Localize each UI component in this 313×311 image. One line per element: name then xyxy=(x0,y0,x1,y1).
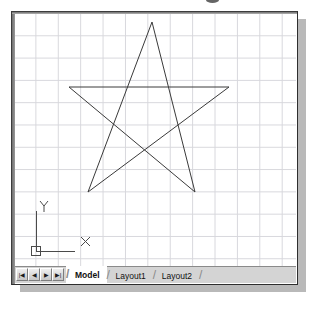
ucs-icon xyxy=(27,199,97,261)
ucs-x-label-glyph xyxy=(81,237,90,246)
tab-separator-icon: / xyxy=(66,268,73,282)
last-tab-button[interactable]: ▶| xyxy=(52,268,64,281)
last-tab-icon: ▶| xyxy=(55,272,62,278)
window-shadow-right xyxy=(298,19,306,292)
tab-separator-icon: / xyxy=(153,269,160,283)
tab-layout2-label: Layout2 xyxy=(162,271,192,281)
tab-strip: / Model / Layout1 / Layout2 / xyxy=(66,267,296,283)
tab-layout2[interactable]: / Layout2 xyxy=(153,268,199,283)
tab-layout1[interactable]: / Layout1 xyxy=(107,268,153,283)
tab-model-label: Model xyxy=(75,270,100,280)
screenshot-stage: |◀ ◀ ▶ ▶| / Model / Layou xyxy=(0,0,313,311)
window-shadow-bottom xyxy=(20,286,306,292)
next-tab-button[interactable]: ▶ xyxy=(40,268,52,281)
scan-artifact-smudge xyxy=(206,0,219,3)
tab-model[interactable]: / Model xyxy=(66,266,107,283)
tab-separator-icon: / xyxy=(107,269,114,283)
previous-tab-icon: ◀ xyxy=(32,272,37,278)
tab-nav-buttons: |◀ ◀ ▶ ▶| xyxy=(15,267,64,283)
first-tab-button[interactable]: |◀ xyxy=(16,268,28,281)
next-tab-icon: ▶ xyxy=(44,272,49,278)
ucs-y-label-glyph xyxy=(40,201,48,212)
previous-tab-button[interactable]: ◀ xyxy=(28,268,40,281)
tab-trailing-separator-icon: / xyxy=(199,267,208,283)
star-polyline[interactable] xyxy=(69,22,229,192)
drawing-canvas[interactable] xyxy=(15,14,296,266)
layout-tab-bar: |◀ ◀ ▶ ▶| / Model / Layou xyxy=(15,266,296,283)
drawing-window: |◀ ◀ ▶ ▶| / Model / Layou xyxy=(11,11,298,285)
first-tab-icon: |◀ xyxy=(19,272,26,278)
tab-layout1-label: Layout1 xyxy=(116,271,146,281)
